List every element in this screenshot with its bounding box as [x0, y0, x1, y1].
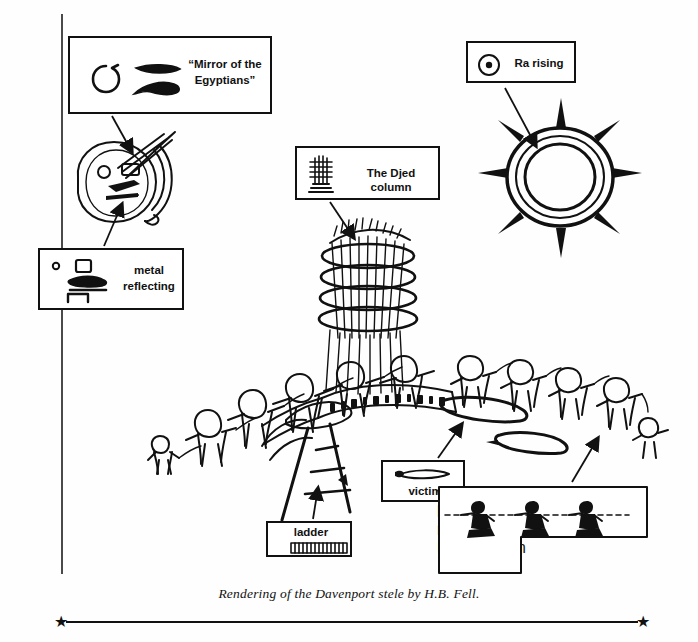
callout-ladder: ladder [266, 521, 352, 557]
star-divider: ★ ★ [54, 614, 650, 630]
ladder-label: ladder [268, 526, 354, 540]
djed-label: The Djed column [345, 167, 437, 194]
rope-and-victim-drawing [441, 397, 567, 453]
callout-worshippers-hauling: worshippers hauling ropes to raise the D… [437, 485, 649, 575]
callout-mirror-of-the-egyptians: “Mirror of the Egyptians” [68, 36, 272, 114]
metal-label-line1: metal [120, 264, 178, 278]
metal-reflecting-glyphs [48, 256, 124, 306]
callout-djed-column: The Djed column [295, 146, 440, 200]
hatched-ladder-glyph [290, 542, 348, 554]
djed-pillar-glyph [305, 154, 339, 196]
sun-disc-glyph [476, 52, 502, 78]
figure-plate: “Mirror of the Egyptians” metal reflecti… [0, 0, 698, 642]
callout-ra-rising: Ra rising [466, 41, 576, 83]
worshipper-crowd-right [451, 356, 668, 458]
ra-label: Ra rising [508, 57, 570, 71]
callout-metal-reflecting: metal reflecting [38, 248, 184, 310]
figure-caption: Rendering of the Davenport stele by H.B.… [0, 586, 698, 602]
worshippers-box-outline [437, 485, 649, 575]
sun-rays-drawing [478, 98, 642, 258]
mirror-disc-drawing [78, 132, 175, 225]
metal-label-line2: reflecting [120, 280, 178, 294]
star-right-icon: ★ [636, 614, 650, 630]
mirror-glyphs [84, 50, 192, 106]
ladder-drawing [262, 402, 351, 520]
mirror-label-line2: Egyptians” [182, 74, 268, 88]
prone-body-glyph [391, 466, 453, 484]
divider-line [66, 621, 638, 623]
mirror-label-line1: “Mirror of the [182, 58, 268, 72]
